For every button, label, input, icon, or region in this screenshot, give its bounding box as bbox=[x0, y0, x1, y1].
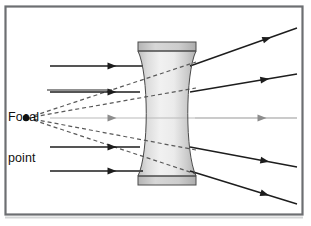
bottom-shadow bbox=[5, 217, 303, 219]
outgoing-ray-2 bbox=[190, 74, 297, 92]
outgoing-ray-arrowhead-3 bbox=[260, 157, 269, 164]
diverging-output-rays bbox=[190, 28, 297, 204]
lens-top-cap bbox=[138, 42, 196, 51]
focal-point-label: Focal point bbox=[8, 84, 39, 192]
incoming-ray-arrowhead-5 bbox=[108, 168, 117, 175]
focal-point-label-line2: point bbox=[8, 152, 39, 166]
incoming-ray-arrowhead-3 bbox=[108, 115, 117, 122]
outgoing-ray-arrowhead-2 bbox=[260, 77, 269, 84]
diagram-canvas bbox=[0, 0, 311, 226]
incoming-ray-arrowhead-4 bbox=[108, 144, 117, 151]
incoming-ray-arrowhead-1 bbox=[108, 63, 117, 70]
lens-bottom-cap bbox=[138, 176, 196, 185]
bottom-shadow bbox=[5, 217, 303, 219]
outgoing-ray-arrowhead-4 bbox=[260, 190, 270, 196]
lens-diagram-figure: Focal point bbox=[0, 0, 311, 226]
outgoing-ray-1 bbox=[190, 28, 297, 66]
outgoing-ray-4 bbox=[190, 171, 297, 204]
axis-ray-arrowhead bbox=[258, 115, 267, 122]
focal-point-label-line1: Focal bbox=[8, 111, 39, 125]
outgoing-ray-3 bbox=[190, 147, 297, 167]
outgoing-ray-arrowhead-1 bbox=[262, 37, 272, 43]
